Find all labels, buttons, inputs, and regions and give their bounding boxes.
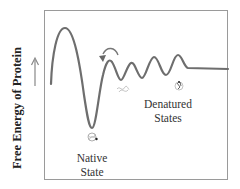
denatured-label-line2: States [133,111,203,125]
protein-molecule-icon [175,81,183,90]
landscape-svg [0,0,240,189]
native-label-line2: State [72,165,112,179]
denatured-label-line1: Denatured [133,97,203,111]
denatured-states-label: Denatured States [133,97,203,125]
protein-molecule-icon [88,133,98,141]
up-arrow-icon [32,58,39,86]
native-state-label: Native State [72,151,112,179]
native-label-line1: Native [72,151,112,165]
protein-molecule-icon [117,86,129,92]
